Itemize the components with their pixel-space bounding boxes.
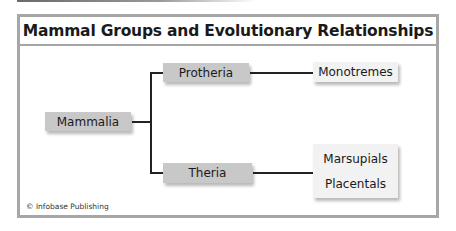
- node-label: Protheria: [179, 66, 233, 80]
- connector-to-monotremes: [250, 72, 313, 74]
- node-mammalia: Mammalia: [45, 112, 131, 131]
- node-protheria: Protheria: [163, 63, 249, 82]
- node-label-placentals: Placentals: [325, 177, 386, 191]
- connector-to-theria: [150, 172, 163, 174]
- connector-to-theria-leaves: [253, 172, 313, 174]
- node-label-marsupials: Marsupials: [323, 152, 387, 166]
- node-label: Mammalia: [57, 115, 119, 129]
- title-bar: Mammal Groups and Evolutionary Relations…: [20, 17, 436, 46]
- connector-to-protheria: [150, 72, 163, 74]
- node-label: Monotremes: [318, 65, 393, 79]
- node-label: Theria: [189, 166, 227, 180]
- diagram-frame: Mammal Groups and Evolutionary Relations…: [17, 14, 439, 218]
- node-marsupials-placentals: Marsupials Placentals: [313, 144, 398, 198]
- top-rule: [17, 0, 257, 2]
- diagram-title: Mammal Groups and Evolutionary Relations…: [23, 22, 434, 40]
- node-monotremes: Monotremes: [313, 62, 398, 82]
- copyright-credit: © Infobase Publishing: [26, 202, 109, 211]
- node-theria: Theria: [163, 163, 252, 183]
- connector-root: [132, 121, 151, 123]
- connector-bracket: [150, 72, 152, 173]
